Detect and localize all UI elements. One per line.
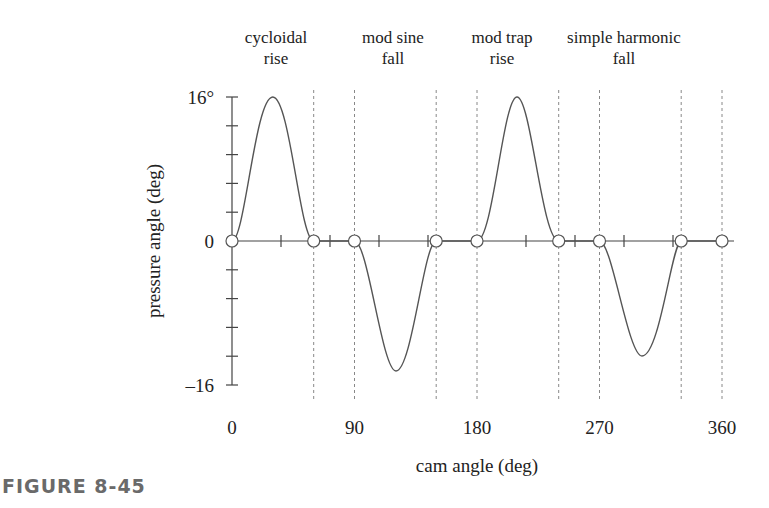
segment-labels: cycloidal rise mod sine fall mod trap ri… <box>245 28 681 68</box>
x-tick-label-0: 0 <box>227 417 237 438</box>
pressure-angle-chart: cycloidal rise mod sine fall mod trap ri… <box>0 0 769 508</box>
x-axis-label: cam angle (deg) <box>416 455 538 477</box>
segment-label-shm: simple harmonic <box>567 28 681 47</box>
segment-label-mod-trap-2: rise <box>490 49 515 68</box>
y-axis-label: pressure angle (deg) <box>143 164 165 318</box>
x-tick-label-180: 180 <box>463 417 492 438</box>
segment-label-mod-trap: mod trap <box>472 28 533 47</box>
y-tick-label-neg16: –16 <box>185 375 215 396</box>
figure-caption: FIGURE 8-45 <box>2 475 146 497</box>
segment-label-cycloidal: cycloidal <box>245 28 308 47</box>
segment-label-mod-sine-2: fall <box>382 49 405 68</box>
segment-label-shm-2: fall <box>613 49 636 68</box>
y-tick-label-0: 0 <box>205 231 215 252</box>
boundary-lines <box>314 90 722 400</box>
segment-label-mod-sine: mod sine <box>362 28 424 47</box>
x-tick-label-270: 270 <box>585 417 614 438</box>
segment-label-cycloidal-2: rise <box>264 49 289 68</box>
y-tick-label-16: 16° <box>187 87 214 108</box>
x-tick-label-90: 90 <box>345 417 364 438</box>
x-tick-label-360: 360 <box>708 417 737 438</box>
